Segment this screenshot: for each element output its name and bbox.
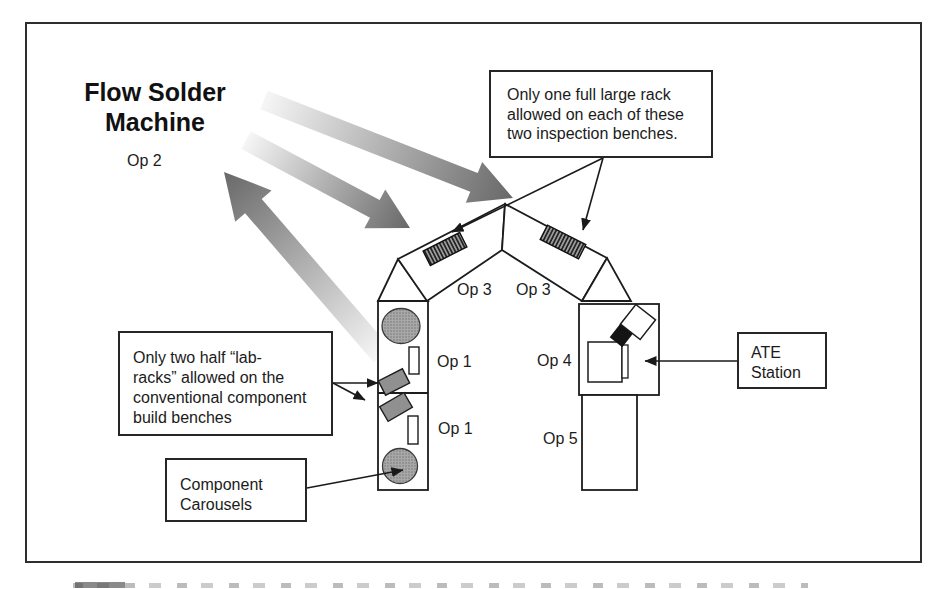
bench-fixture-bottom xyxy=(408,416,418,444)
ate-monitor xyxy=(588,342,622,382)
component-carousels-note: Component Carousels xyxy=(165,458,307,522)
op2-label: Op 2 xyxy=(127,152,162,170)
cropped-caption-remnant xyxy=(73,583,808,588)
ate-monitor-side-panel xyxy=(622,345,628,378)
op4-label: Op 4 xyxy=(537,352,572,370)
cropped-caption-remnant-bold xyxy=(75,582,125,588)
op5-bench xyxy=(582,395,637,490)
bench-fixture-top xyxy=(409,347,419,374)
facility-layout-diagram: Flow Solder Machine Op 2 Op 3 Op 3 Op 1 … xyxy=(0,0,943,589)
pointer-inspection-note-to-right-rack xyxy=(583,158,603,230)
component-carousel-top xyxy=(382,309,420,344)
lab-rack-note: Only two half “lab- racks” allowed on th… xyxy=(118,331,333,436)
inspection-bench-note: Only one full large rack allowed on each… xyxy=(489,70,713,158)
flow-solder-machine-title: Flow Solder Machine xyxy=(58,77,252,137)
component-carousel-bottom xyxy=(383,449,418,484)
op3-left-label: Op 3 xyxy=(457,281,492,299)
op1-bottom-label: Op 1 xyxy=(438,420,473,438)
flow-arrow-to-inspection-1 xyxy=(260,91,513,203)
op3-right-label: Op 3 xyxy=(516,281,551,299)
ate-station-note: ATE Station xyxy=(737,332,827,389)
pointer-labrack-note-lower xyxy=(333,383,365,400)
op1-top-label: Op 1 xyxy=(437,353,472,371)
op5-label: Op 5 xyxy=(543,430,578,448)
